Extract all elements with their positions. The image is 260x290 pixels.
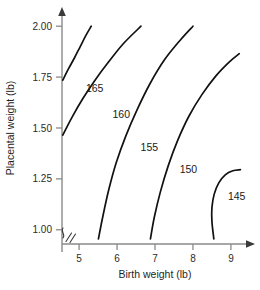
y-axis-arrowhead	[58, 7, 66, 16]
contour-chart: 2.001.751.501.251.00 56789 1651601551501…	[0, 0, 260, 290]
contour-label-160: 160	[112, 108, 130, 120]
contour-plot-svg: 2.001.751.501.251.00 56789 1651601551501…	[0, 0, 260, 290]
y-tick-label: 1.00	[33, 224, 53, 235]
x-tick-label: 5	[76, 253, 82, 264]
y-tick-label: 1.50	[33, 123, 53, 134]
x-tick-label: 7	[152, 253, 158, 264]
contour-line-145	[212, 170, 241, 239]
y-axis-ticks: 2.001.751.501.251.00	[33, 21, 62, 236]
y-tick-label: 1.75	[33, 72, 53, 83]
contour-line-165	[63, 26, 91, 80]
x-tick-label: 9	[228, 253, 234, 264]
x-tick-label: 8	[190, 253, 196, 264]
y-axis	[58, 7, 66, 252]
y-tick-label: 1.25	[33, 173, 53, 184]
x-axis-title: Birth weight (lb)	[119, 268, 192, 280]
x-axis	[62, 240, 255, 248]
contour-line-150	[150, 54, 239, 239]
contour-label-165: 165	[86, 82, 104, 94]
x-axis-ticks: 56789	[76, 244, 234, 264]
x-tick-label: 6	[114, 253, 120, 264]
contour-label-145: 145	[228, 190, 246, 202]
contour-label-155: 155	[141, 141, 159, 153]
x-axis-arrowhead	[246, 240, 255, 248]
contour-label-150: 150	[180, 163, 198, 175]
axis-break-mark	[62, 228, 75, 243]
y-axis-title: Placental weight (lb)	[4, 81, 16, 176]
contour-lines	[63, 26, 241, 239]
y-tick-label: 2.00	[33, 21, 53, 32]
